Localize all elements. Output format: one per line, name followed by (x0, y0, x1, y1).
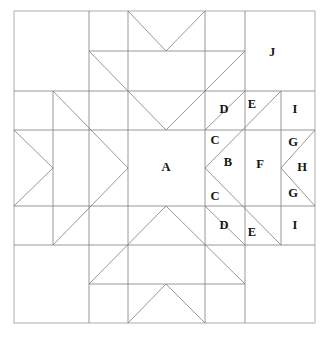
piece-label-d-lower: D (219, 218, 228, 232)
piece-label-a: A (161, 160, 170, 174)
piece-label-g-lower: G (288, 186, 298, 200)
piece-label-c-upper: C (210, 133, 219, 147)
piece-label-i-upper: I (293, 102, 298, 116)
piece-label-c-lower: C (210, 189, 219, 203)
piece-label-i-lower: I (293, 218, 298, 232)
piece-label-e-upper: E (248, 97, 256, 111)
piece-label-g-upper: G (288, 135, 298, 149)
piece-label-h: H (297, 160, 307, 174)
piece-label-e-lower: E (248, 225, 256, 239)
quilt-block-svg: A B C C D D E E F G G H I I J (0, 0, 329, 342)
quilt-block-diagram: A B C C D D E E F G G H I I J (0, 0, 329, 342)
piece-label-f: F (256, 157, 264, 171)
piece-label-j: J (269, 45, 275, 59)
piece-label-b: B (224, 155, 232, 169)
piece-label-d-upper: D (219, 102, 228, 116)
